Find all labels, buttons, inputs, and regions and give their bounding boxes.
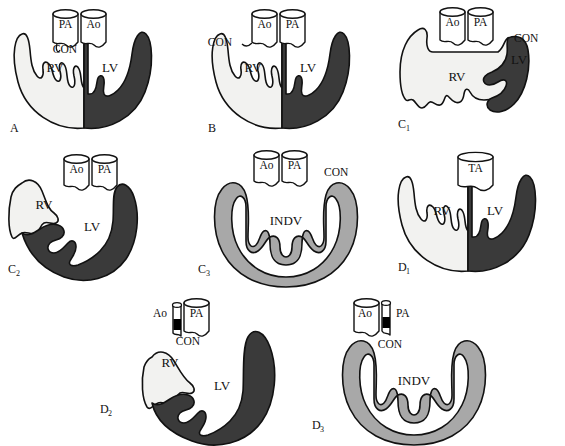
svg-text:C: C	[8, 262, 16, 276]
pulmonary-artery-label: PA	[190, 307, 204, 319]
panel-label: D 2	[100, 402, 112, 418]
right-ventricle-label: RV	[161, 355, 179, 370]
panel-sublabel: 2	[108, 409, 112, 418]
panel-sublabel: 3	[320, 425, 324, 434]
aorta-rim	[81, 10, 106, 18]
pulmonary-artery-rim	[382, 301, 391, 306]
panel-c2: Ao PA RV LV C 2	[0, 145, 190, 290]
panel-c1: Ao PA CON RV LV C 1	[380, 0, 565, 150]
panel-label: B	[208, 121, 216, 135]
conus-label: CON	[514, 32, 539, 44]
aorta-rim	[254, 151, 279, 159]
aorta-label: Ao	[358, 307, 372, 319]
pulmonary-artery-label: PA	[286, 18, 300, 30]
left-ventricle-label: LV	[487, 203, 504, 218]
panel-c3: Ao PA CON INDV C 3	[190, 145, 385, 290]
panel-label: D 3	[312, 418, 324, 434]
pulmonary-artery-label: PA	[474, 16, 488, 28]
conus-label: CON	[208, 36, 233, 48]
aorta-label: Ao	[69, 163, 83, 175]
panel-b: Ao PA CON RV LV B	[190, 0, 380, 150]
left-ventricle-label: LV	[511, 52, 528, 67]
figure-root: PA Ao CON RV LV A Ao PA CON RV LV B	[0, 0, 565, 446]
conus-label: CON	[176, 335, 201, 347]
aorta-label: Ao	[445, 16, 459, 28]
pulmonary-artery-rim	[282, 151, 307, 159]
left-ventricle-shape	[282, 32, 350, 128]
indeterminate-ventricle-label: INDV	[270, 213, 303, 228]
right-ventricle-label: RV	[35, 197, 53, 212]
pulmonary-artery-rim	[184, 299, 209, 307]
left-ventricle-shape	[84, 32, 152, 128]
right-ventricle-shape	[398, 175, 468, 271]
conus-connector	[242, 43, 252, 46]
panel-label: C 2	[8, 262, 20, 278]
pulmonary-artery-rim	[468, 8, 493, 16]
aorta-label: Ao	[259, 159, 273, 171]
panel-a: PA Ao CON RV LV A	[0, 0, 190, 150]
panel-label: A	[10, 121, 19, 135]
aorta-rim	[354, 299, 379, 307]
aorta-label: Ao	[153, 307, 167, 319]
left-ventricle-label: LV	[214, 378, 231, 393]
pulmonary-artery-rim	[92, 155, 117, 163]
pulmonary-artery-label: PA	[288, 159, 302, 171]
indeterminate-ventricle-label: INDV	[398, 373, 431, 388]
conus-label: CON	[53, 43, 78, 55]
indeterminate-ventricle-shape	[215, 183, 358, 287]
left-ventricle-label: LV	[84, 219, 101, 234]
pulmonary-artery-atresia-marker	[383, 317, 391, 328]
svg-text:C: C	[398, 117, 406, 131]
panel-sublabel: 1	[406, 124, 410, 133]
right-ventricle-label: RV	[448, 69, 466, 84]
pulmonary-artery-label: PA	[396, 307, 410, 319]
panel-sublabel: 3	[206, 269, 210, 278]
svg-text:C: C	[198, 262, 206, 276]
aorta-rim	[64, 155, 89, 163]
truncus-arteriosus-rim	[458, 152, 493, 161]
aorta-label: Ao	[86, 18, 100, 30]
panel-sublabel: 2	[16, 269, 20, 278]
panel-label: D 1	[398, 260, 410, 276]
panel-d1: TA RV LV D 1	[380, 145, 565, 290]
conus-label: CON	[378, 338, 403, 350]
pulmonary-artery-label: PA	[59, 18, 73, 30]
panel-label: C 1	[398, 117, 410, 133]
panel-d2: Ao PA CON RV LV D 2	[130, 295, 325, 446]
indeterminate-ventricle-shape	[343, 341, 486, 445]
right-ventricle-label: RV	[46, 60, 64, 75]
aorta-rim	[173, 303, 182, 308]
right-ventricle-label: RV	[433, 203, 451, 218]
pulmonary-artery-rim	[53, 10, 78, 18]
panel-d3: Ao PA CON INDV D 3	[300, 295, 495, 446]
conus-label: CON	[324, 166, 349, 178]
aorta-rim	[252, 10, 277, 18]
left-ventricle-label: LV	[300, 60, 317, 75]
panel-sublabel: 1	[406, 267, 410, 276]
aorta-atresia-marker	[174, 319, 182, 330]
pulmonary-artery-label: PA	[98, 163, 112, 175]
panel-label: C 3	[198, 262, 210, 278]
pulmonary-artery-rim	[280, 10, 305, 18]
aorta-rim	[440, 8, 465, 16]
right-ventricle-label: RV	[244, 60, 262, 75]
aorta-label: Ao	[257, 18, 271, 30]
truncus-arteriosus-label: TA	[468, 162, 483, 174]
left-ventricle-label: LV	[102, 60, 119, 75]
